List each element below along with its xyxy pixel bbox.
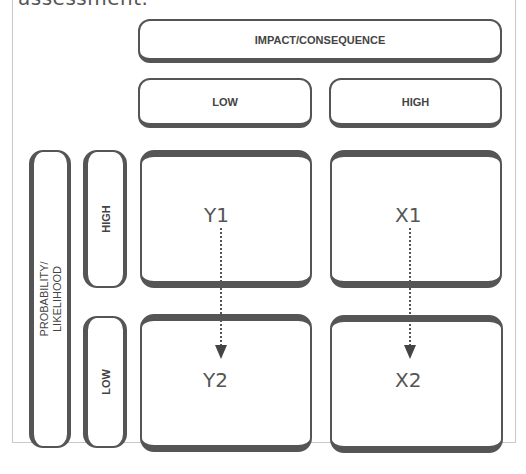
row-header-low: LOW <box>83 316 127 448</box>
impact-consequence-label: IMPACT/CONSEQUENCE <box>255 34 386 46</box>
arrow-x1-to-x2 <box>409 228 411 346</box>
row-header-high: HIGH <box>83 150 127 288</box>
column-header-high: HIGH <box>329 78 502 128</box>
arrow-head-x2-icon <box>404 345 416 359</box>
probability-likelihood-header: PROBABILITY/ LIKELIHOOD <box>29 150 71 448</box>
cell-label-x1: X1 <box>395 203 421 227</box>
cell-label-y2: Y2 <box>203 368 228 392</box>
cell-label-x2: X2 <box>395 368 421 392</box>
column-header-low: LOW <box>138 78 312 128</box>
row-low-label: LOW <box>99 369 111 395</box>
probability-likelihood-label: PROBABILITY/ LIKELIHOOD <box>38 261 64 336</box>
row-high-label: HIGH <box>100 205 112 233</box>
impact-consequence-header: IMPACT/CONSEQUENCE <box>138 19 502 63</box>
column-high-label: HIGH <box>402 96 430 108</box>
arrow-head-y2-icon <box>215 345 227 359</box>
cell-label-y1: Y1 <box>204 203 229 227</box>
column-low-label: LOW <box>212 96 238 108</box>
arrow-y1-to-y2 <box>220 228 222 346</box>
